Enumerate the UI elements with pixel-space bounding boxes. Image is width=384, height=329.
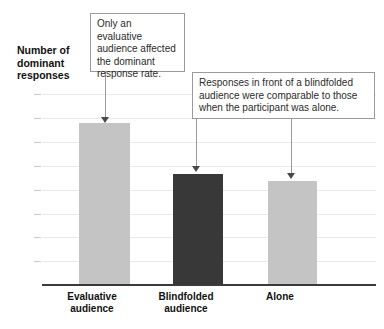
tick-dash-2 (34, 261, 41, 262)
bar-alone (268, 181, 317, 285)
bar-evaluative-audience (79, 123, 130, 285)
annotation-leader-blindfolded (196, 119, 197, 168)
annotation-arrowhead-blindfolded (192, 166, 200, 172)
annotation-callout-evaluative: Only an evaluative audience affected the… (90, 13, 185, 72)
annotation-leader-alone (291, 119, 292, 175)
bar-chart-figure: Number ofdominantresponses 16 14 12 10 8… (0, 0, 384, 329)
tick-dash-6 (34, 214, 41, 215)
x-tick-label-blindfolded-audience-line2: audience (164, 303, 207, 314)
plot-area: 16 14 12 10 8 6 4 2 0 (42, 90, 376, 285)
y-axis-title-line2: dominant (17, 57, 64, 69)
tick-dash-12 (34, 142, 41, 143)
annotation-arrowhead-alone (287, 173, 295, 179)
tick-dash-16 (34, 94, 41, 95)
x-tick-label-evaluative-audience-line2: audience (70, 303, 113, 314)
tick-dash-10 (34, 166, 41, 167)
x-tick-label-evaluative-audience: Evaluativeaudience (54, 291, 130, 315)
bar-blindfolded-audience (173, 174, 223, 285)
annotation-callout-blindfolded-alone: Responses in front of a blindfolded audi… (192, 72, 375, 119)
x-tick-label-alone: Alone (242, 291, 318, 303)
x-tick-label-evaluative-audience-line1: Evaluative (67, 291, 116, 302)
annotation-arrowhead-evaluative (101, 117, 109, 123)
y-axis-title-line3: responses (17, 69, 70, 81)
x-tick-label-blindfolded-audience: Blindfoldedaudience (148, 291, 224, 315)
x-tick-label-blindfolded-audience-line1: Blindfolded (159, 291, 214, 302)
x-axis-line (42, 284, 376, 286)
tick-dash-8 (34, 190, 41, 191)
tick-dash-14 (34, 118, 41, 119)
x-tick-label-alone-line1: Alone (266, 291, 294, 302)
y-axis-title-line1: Number of (17, 44, 70, 56)
tick-dash-4 (34, 237, 41, 238)
